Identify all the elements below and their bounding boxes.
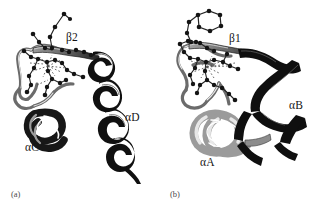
panel-a-graphic (0, 0, 166, 185)
figure-protein-structures: β2 αD αC (a) (0, 0, 333, 211)
label-helix-b: αB (289, 100, 303, 112)
label-beta-strand-2: β2 (66, 32, 78, 44)
subcaption-a: (a) (11, 190, 20, 199)
subcaption-b: (b) (170, 190, 180, 199)
label-beta-strand-1: β1 (229, 33, 241, 45)
label-helix-d: αD (125, 112, 140, 124)
panel-a: β2 αD αC (a) (0, 0, 166, 211)
panel-b: β1 αB αA (b) (167, 0, 333, 211)
panel-b-graphic (167, 0, 333, 185)
label-helix-c: αC (25, 142, 39, 154)
label-helix-a: αA (200, 157, 215, 169)
